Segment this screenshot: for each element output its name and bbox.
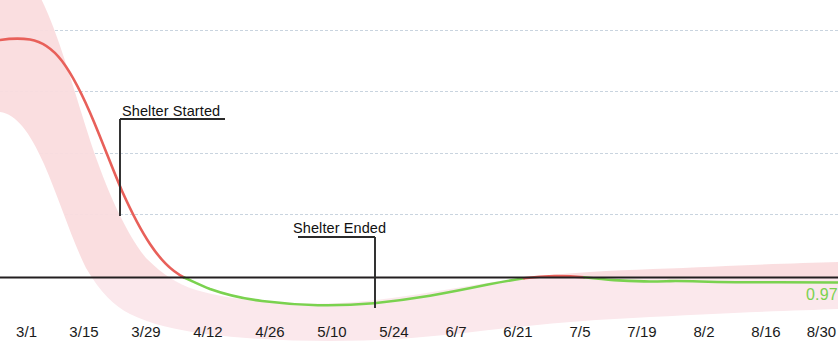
shelter-started-leader — [120, 119, 225, 216]
x-axis-tick-label: 8/16 — [751, 323, 781, 340]
x-axis-tick-label: 7/19 — [627, 323, 657, 340]
chart-plot-area — [0, 0, 838, 347]
x-axis-tick-label: 6/7 — [445, 323, 466, 340]
confidence-band — [0, 0, 838, 347]
x-axis-tick-label: 4/26 — [255, 323, 285, 340]
shelter-ended-leader — [298, 237, 375, 308]
x-axis-tick-label: 3/1 — [16, 323, 37, 340]
confidence-band-below — [0, 0, 838, 347]
x-axis: 3/13/153/294/124/265/105/246/76/217/57/1… — [0, 323, 838, 347]
x-axis-tick-label: 6/21 — [503, 323, 533, 340]
annotation-label-shelter-ended: Shelter Ended — [293, 220, 386, 236]
gridlines — [0, 31, 838, 215]
x-axis-tick-label: 8/2 — [693, 323, 714, 340]
x-axis-tick-label: 4/12 — [193, 323, 223, 340]
x-axis-tick-label: 7/5 — [569, 323, 590, 340]
x-axis-tick-label: 3/29 — [131, 323, 161, 340]
x-axis-tick-label: 3/15 — [69, 323, 99, 340]
x-axis-tick-label: 8/30 — [807, 323, 837, 340]
x-axis-tick-label: 5/24 — [379, 323, 409, 340]
end-value-callout: 0.97 — [806, 286, 838, 304]
rt-trend-chart: Shelter Started Shelter Ended 0.97 3/13/… — [0, 0, 838, 347]
annotation-label-shelter-started: Shelter Started — [122, 103, 220, 119]
x-axis-tick-label: 5/10 — [317, 323, 347, 340]
